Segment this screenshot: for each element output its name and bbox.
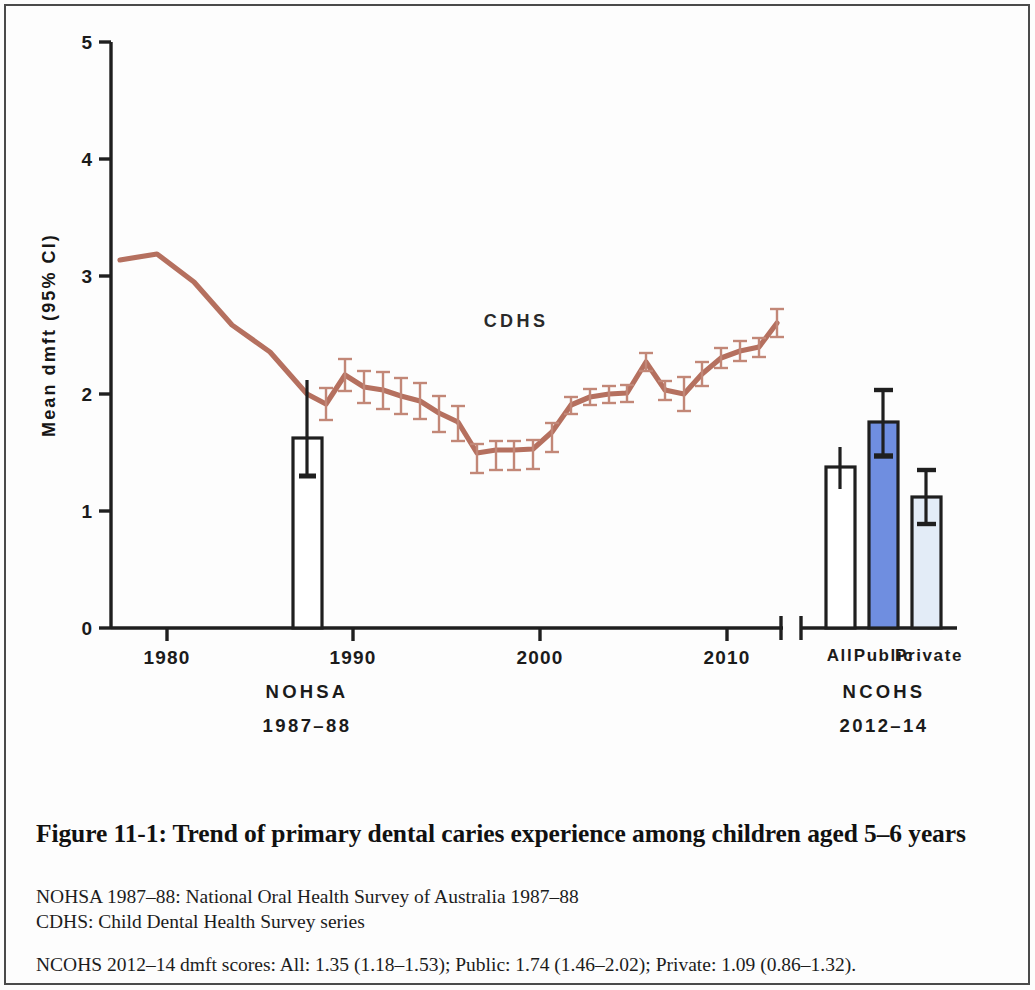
y-axis (99, 42, 111, 628)
bar-label-all: All (827, 646, 854, 665)
x-tick-2000: 2000 (516, 647, 563, 668)
figure-title-block: Figure 11-1: Trend of primary dental car… (36, 818, 996, 849)
figure-note-nohsa: NOHSA 1987–88: National Oral Health Surv… (36, 884, 996, 909)
bar-all (826, 467, 855, 628)
figure-footnote: NCOHS 2012–14 dmft scores: All: 1.35 (1.… (36, 952, 996, 977)
y-tick-1: 1 (81, 501, 92, 522)
y-tick-2: 2 (81, 384, 92, 405)
y-tick-4: 4 (81, 149, 92, 170)
bar-label-private: Private (895, 646, 963, 665)
ncohs-sub-label: 2012–14 (840, 715, 929, 736)
ncohs-bar-labels: All Public Private (827, 646, 963, 665)
figure-footnote-block: NCOHS 2012–14 dmft scores: All: 1.35 (1.… (36, 952, 996, 977)
figure-page: 5 4 3 2 1 0 Mean dmft (95% CI) 1980 (0, 0, 1035, 990)
x-tick-1980: 1980 (143, 647, 190, 668)
trend-chart: 5 4 3 2 1 0 Mean dmft (95% CI) 1980 (0, 0, 1035, 790)
ncohs-group-caption: NCOHS 2012–14 (840, 681, 929, 736)
ncohs-bars (826, 390, 941, 628)
ncohs-label: NCOHS (843, 681, 926, 702)
cdhs-series-annotation: CDHS (484, 311, 549, 331)
figure-notes-block: NOHSA 1987–88: National Oral Health Surv… (36, 884, 996, 934)
nohsa-sub-label: 1987–88 (263, 715, 352, 736)
y-tick-5: 5 (81, 32, 92, 53)
x-tick-1990: 1990 (329, 647, 376, 668)
nohsa-label: NOHSA (266, 681, 349, 702)
nohsa-group-caption: NOHSA 1987–88 (263, 681, 352, 736)
y-tick-labels: 5 4 3 2 1 0 (81, 32, 92, 639)
cdhs-trend-line (120, 254, 777, 453)
chart-area: 5 4 3 2 1 0 Mean dmft (95% CI) 1980 (0, 0, 1035, 790)
y-tick-3: 3 (81, 266, 92, 287)
x-axis-time (111, 616, 783, 641)
figure-note-cdhs: CDHS: Child Dental Health Survey series (36, 909, 996, 934)
figure-title: Figure 11-1: Trend of primary dental car… (36, 818, 996, 849)
x-tick-labels: 1980 1990 2000 2010 (143, 647, 750, 668)
nohsa-bar (293, 380, 322, 628)
x-tick-2010: 2010 (703, 647, 750, 668)
y-axis-label: Mean dmft (95% CI) (39, 233, 59, 437)
y-tick-0: 0 (81, 618, 92, 639)
